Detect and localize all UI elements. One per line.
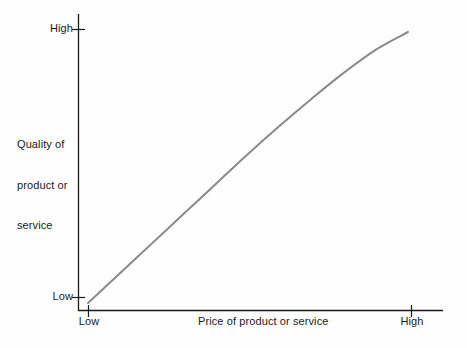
x-axis-title: Price of product or service	[198, 315, 358, 328]
y-axis-title-line-1: Quality of	[17, 138, 79, 152]
quality-price-curve	[88, 32, 408, 303]
x-axis-tick-label-low: Low	[73, 315, 105, 328]
y-axis-title-line-2: product or	[17, 179, 79, 193]
y-axis-title: Quality of product or service	[17, 111, 79, 260]
y-axis-title-line-3: service	[17, 219, 79, 233]
chart-page: High Low Low High Quality of product or …	[0, 0, 467, 348]
y-axis-tick-label-high: High	[43, 22, 73, 35]
x-axis-tick-label-high: High	[396, 315, 428, 328]
y-axis-tick-label-low: Low	[43, 290, 73, 303]
